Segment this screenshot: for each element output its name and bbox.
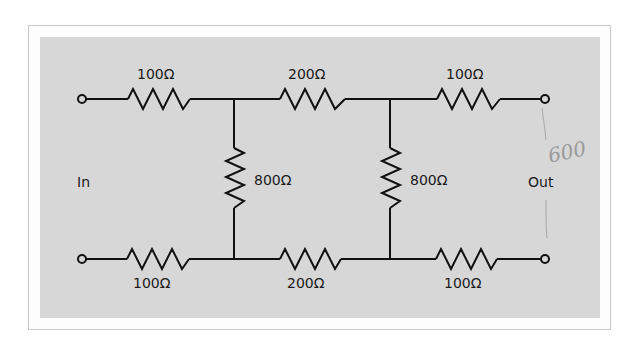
label-r8: 100Ω [444,276,481,290]
shunt-branch-2 [382,99,400,259]
output-terminal-top [541,95,549,103]
resistor-r5 [382,148,400,208]
top-rail [86,89,541,109]
resistor-r4 [226,148,244,208]
label-r4: 800Ω [254,173,291,187]
pencil-marks [542,108,547,238]
label-r3: 100Ω [446,67,483,81]
shunt-branch-1 [226,99,244,259]
input-terminal-bottom [78,255,86,263]
resistor-r2 [280,89,345,109]
label-r1: 100Ω [137,67,174,81]
resistor-r7 [280,249,341,269]
input-label: In [77,175,90,189]
label-r6: 100Ω [133,276,170,290]
output-label: Out [528,175,553,189]
resistor-r6 [127,249,189,269]
label-r7: 200Ω [287,276,324,290]
resistor-r1 [128,89,190,109]
input-terminal-top [78,95,86,103]
label-r2: 200Ω [288,67,325,81]
label-r5: 800Ω [410,173,447,187]
resistor-r3 [437,89,500,109]
output-terminal-bottom [541,255,549,263]
resistor-r8 [436,249,497,269]
bottom-rail [86,249,541,269]
